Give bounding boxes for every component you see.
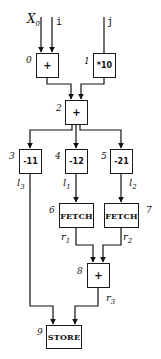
node-9-store: STORE	[46, 325, 82, 349]
node-4-offset: -12	[65, 149, 88, 174]
edge-7-to-8	[103, 227, 121, 262]
edge-label-l1: l1	[63, 177, 71, 191]
input-x0-label: X0	[27, 12, 40, 28]
node-1-number: 1	[84, 56, 90, 66]
node-0-number: 0	[26, 55, 32, 65]
node-7-fetch: FETCH	[104, 203, 139, 228]
input-i-label: i	[56, 16, 62, 27]
input-j-label: j	[107, 16, 113, 27]
node-7-number: 7	[146, 205, 152, 215]
edge-1-to-2	[81, 77, 104, 99]
edge-label-l2: l2	[129, 177, 137, 191]
node-5-number: 5	[101, 151, 107, 161]
node-8-number: 8	[77, 266, 83, 276]
edge-6-to-8	[76, 227, 93, 262]
node-5-offset: -21	[110, 149, 133, 174]
node-6-number: 6	[49, 205, 55, 215]
edge-2-to-5	[80, 124, 121, 148]
edge-8-to-9	[75, 287, 98, 324]
edge-0-to-2	[47, 77, 71, 99]
node-0-add: +	[36, 53, 59, 78]
node-6-fetch: FETCH	[59, 203, 94, 228]
node-4-number: 4	[55, 151, 61, 161]
node-3-number: 3	[9, 151, 15, 161]
edge-label-r2: r2	[123, 231, 132, 245]
node-8-add: +	[87, 263, 110, 288]
node-1-multiply: *10	[93, 53, 116, 78]
edge-label-l3: l3	[17, 177, 25, 191]
node-2-number: 2	[56, 103, 62, 113]
node-2-add: +	[65, 100, 88, 125]
edge-3-to-9	[30, 173, 53, 324]
dataflow-diagram: X0 i j 0 + 1 *10 2 + 3 -11 4 -12 5 -21 l…	[0, 0, 161, 359]
edge-label-r1: r1	[61, 231, 70, 245]
edge-label-r3: r3	[106, 292, 115, 306]
node-3-offset: -11	[19, 149, 42, 174]
node-9-number: 9	[37, 327, 43, 337]
edge-2-to-3	[30, 124, 72, 148]
